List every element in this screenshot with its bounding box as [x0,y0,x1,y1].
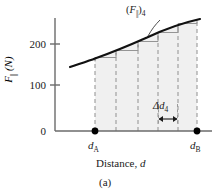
x-tick-label-da: dA [88,140,99,154]
y-tick-label-0: 0 [14,126,46,137]
y-axis-title: F|| (N) [2,46,17,94]
x-axis-title-text: Distance, [96,157,140,169]
annot-index: 4 [142,9,146,18]
x-axis-title-var: d [140,157,146,169]
x-tick-label-db: dB [190,140,201,154]
figure-caption: (a) [99,177,111,188]
x-tick-da-sub: A [94,145,99,154]
x-tick-db-sub: B [196,145,201,154]
y-axis-title-force: F [2,76,14,83]
y-axis-title-unit: (N) [2,56,14,73]
force-segment-annotation: (F||)4 [126,5,145,18]
point-d-b [194,128,201,135]
y-tick-label-100: 100 [14,80,46,91]
delta-d-annotation: Δd4 [153,101,168,114]
force-distance-figure: 200 100 0 F|| (N) dA dB Distance, d (F||… [0,0,219,194]
delta-d-main: Δd [153,100,164,111]
delta-d-index: 4 [164,105,168,114]
y-axis-title-parallel: || [9,74,18,76]
point-d-a [92,128,99,135]
shaded-work-area [95,20,197,131]
y-tick-label-200: 200 [14,39,46,50]
x-axis-title: Distance, d [96,158,145,169]
